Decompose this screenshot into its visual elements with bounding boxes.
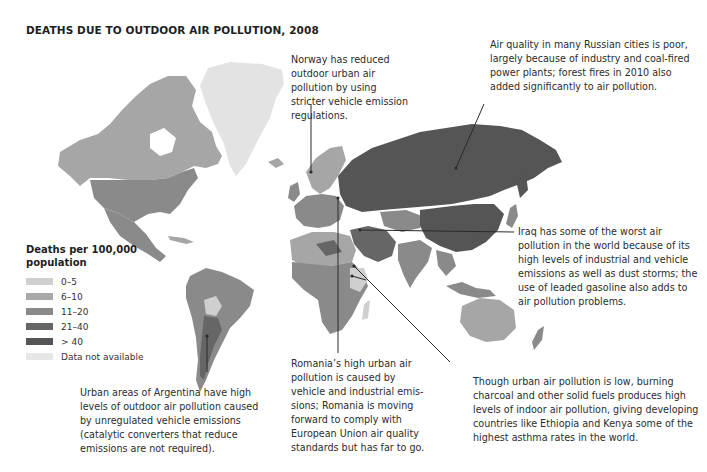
legend-swatch bbox=[26, 308, 53, 315]
legend-swatch bbox=[26, 353, 53, 360]
legend-label: > 40 bbox=[61, 337, 83, 347]
legend: Deaths per 100,000 population 0–5 6–10 1… bbox=[26, 243, 144, 364]
note-line: Iraq has some of the worst air bbox=[518, 225, 697, 239]
note-line: sions; Romania is moving bbox=[291, 399, 424, 413]
legend-swatch bbox=[26, 293, 53, 300]
note-line: countries like Ethiopia and Kenya some o… bbox=[473, 417, 698, 431]
legend-label: 0–5 bbox=[61, 277, 77, 287]
note-line: levels of outdoor air pollution caused bbox=[80, 400, 258, 414]
legend-title-line: Deaths per 100,000 bbox=[26, 243, 144, 256]
annotation-iraq: Iraq has some of the worst air pollution… bbox=[518, 225, 697, 309]
note-line: (catalytic converters that reduce bbox=[80, 428, 258, 442]
legend-swatch bbox=[26, 278, 53, 285]
note-line: Romania’s high urban air bbox=[291, 357, 424, 371]
legend-title: Deaths per 100,000 population bbox=[26, 243, 144, 269]
note-line: Urban areas of Argentina have high bbox=[80, 386, 258, 400]
note-line: pollution is caused by bbox=[291, 371, 424, 385]
note-line: use of leaded gasoline also adds to bbox=[518, 281, 697, 295]
legend-label: Data not available bbox=[61, 352, 144, 362]
region-canada bbox=[58, 76, 222, 186]
legend-swatch bbox=[26, 338, 53, 345]
note-line: added significantly to air pollution. bbox=[490, 80, 690, 94]
annotation-russia: Air quality in many Russian cities is po… bbox=[490, 38, 690, 94]
legend-item-no-data: Data not available bbox=[26, 349, 144, 364]
legend-swatch bbox=[26, 323, 53, 330]
region-new-zealand bbox=[532, 326, 544, 350]
note-line: air pollution problems. bbox=[518, 295, 697, 309]
legend-item-21-40: 21–40 bbox=[26, 319, 144, 334]
note-line: outdoor urban air bbox=[291, 67, 408, 81]
legend-label: 21–40 bbox=[61, 322, 88, 332]
note-line: pollution by using bbox=[291, 81, 408, 95]
note-line: by unregulated vehicle emissions bbox=[80, 414, 258, 428]
note-line: European Union air quality bbox=[291, 427, 424, 441]
region-china bbox=[420, 204, 504, 252]
note-line: Norway has reduced bbox=[291, 53, 408, 67]
note-line: largely because of industry and coal-fir… bbox=[490, 52, 690, 66]
note-line: emissions are not required). bbox=[80, 442, 258, 456]
note-line: stricter vehicle emission bbox=[291, 95, 408, 109]
annotation-norway: Norway has reduced outdoor urban air pol… bbox=[291, 53, 408, 123]
legend-label: 11–20 bbox=[61, 307, 88, 317]
legend-title-line: population bbox=[26, 256, 144, 269]
region-russia bbox=[338, 124, 562, 212]
note-line: regulations. bbox=[291, 109, 408, 123]
annotation-ethiopia-kenya: Though urban air pollution is low, burni… bbox=[473, 375, 698, 445]
note-line: Though urban air pollution is low, burni… bbox=[473, 375, 698, 389]
region-india bbox=[398, 240, 432, 288]
note-line: highest asthma rates in the world. bbox=[473, 431, 698, 445]
note-line: vehicle and industrial emis- bbox=[291, 385, 424, 399]
note-line: high levels of industrial and vehicle bbox=[518, 253, 697, 267]
note-line: standards but has far to go. bbox=[291, 441, 424, 455]
note-line: levels of indoor air pollution, giving d… bbox=[473, 403, 698, 417]
annotation-romania: Romania’s high urban air pollution is ca… bbox=[291, 357, 424, 455]
legend-label: 6–10 bbox=[61, 292, 83, 302]
region-europe bbox=[294, 194, 344, 228]
legend-item-over-40: > 40 bbox=[26, 334, 144, 349]
note-line: forward to comply with bbox=[291, 413, 424, 427]
note-line: emissions as well as dust storms; the bbox=[518, 267, 697, 281]
note-line: power plants; forest fires in 2010 also bbox=[490, 66, 690, 80]
note-line: charcoal and other solid fuels produces … bbox=[473, 389, 698, 403]
note-line: Air quality in many Russian cities is po… bbox=[490, 38, 690, 52]
legend-item-11-20: 11–20 bbox=[26, 304, 144, 319]
region-middle-east bbox=[350, 226, 396, 262]
note-line: pollution in the world because of its bbox=[518, 239, 697, 253]
region-australia bbox=[460, 298, 516, 342]
legend-item-6-10: 6–10 bbox=[26, 289, 144, 304]
legend-item-0-5: 0–5 bbox=[26, 274, 144, 289]
annotation-argentina: Urban areas of Argentina have high level… bbox=[80, 386, 258, 456]
